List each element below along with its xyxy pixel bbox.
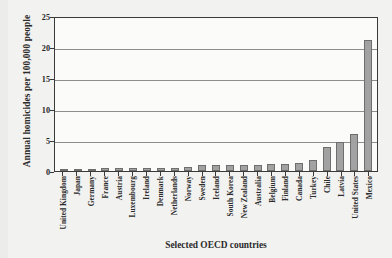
x-axis-category-label: Turkey	[309, 176, 318, 199]
x-axis-category-label: Ireland	[142, 176, 151, 200]
bar	[309, 160, 317, 171]
x-label-slot: Denmark	[153, 176, 167, 238]
bar	[254, 165, 262, 171]
x-axis-category-label: United Kingdom	[58, 176, 67, 229]
bar-slot	[264, 18, 278, 171]
bar	[198, 165, 206, 171]
bar	[281, 164, 289, 171]
bar	[157, 168, 165, 171]
bar	[364, 40, 372, 171]
bar-slot	[168, 18, 182, 171]
x-label-slot: Austria	[112, 176, 126, 238]
x-axis-category-label: Australia	[253, 176, 262, 206]
x-axis-category-label: Canada	[295, 176, 304, 201]
bar-slot	[85, 18, 99, 171]
x-axis-title: Selected OECD countries	[54, 240, 378, 250]
x-axis-category-label: Sweden	[198, 176, 207, 201]
x-axis-category-label: South Korea	[225, 176, 234, 216]
x-label-slot: Finland	[279, 176, 293, 238]
x-label-slot: France	[98, 176, 112, 238]
bar-slot	[154, 18, 168, 171]
bar	[129, 168, 137, 171]
bar	[295, 163, 303, 171]
x-label-slot: Norway	[181, 176, 195, 238]
x-label-slot: Mexico	[362, 176, 376, 238]
x-label-slot: Japan	[70, 176, 84, 238]
y-axis-title: Annual homicides per 100,000 people	[22, 6, 32, 176]
bar	[240, 165, 248, 171]
bar-slot	[140, 18, 154, 171]
bar	[74, 169, 82, 171]
bar-slot	[195, 18, 209, 171]
bar	[115, 168, 123, 171]
bar-slot	[126, 18, 140, 171]
x-label-slot: United States	[348, 176, 362, 238]
x-axis-category-label: Chile	[323, 176, 332, 193]
x-axis-category-label: New Zealand	[239, 176, 248, 218]
bar-slot	[98, 18, 112, 171]
bar	[336, 142, 344, 171]
bar-slot	[292, 18, 306, 171]
x-label-slot: Sweden	[195, 176, 209, 238]
bar	[212, 165, 220, 171]
bar-slot	[278, 18, 292, 171]
x-axis-category-label: Luxembourg	[128, 176, 137, 218]
x-axis-category-labels: United KingdomJapanGermanyFranceAustriaL…	[54, 176, 378, 238]
y-axis-tick-label: 5	[30, 137, 50, 146]
x-axis-category-label: Norway	[184, 176, 193, 201]
y-axis-tick-label: 15	[30, 75, 50, 84]
bar-slot	[57, 18, 71, 171]
bar-slot	[209, 18, 223, 171]
x-label-slot: Netherlands	[167, 176, 181, 238]
y-axis-tick-label: 20	[30, 44, 50, 53]
x-label-slot: Ireland	[139, 176, 153, 238]
bar	[323, 147, 331, 171]
x-axis-category-label: Japan	[72, 176, 81, 196]
bar-slot	[223, 18, 237, 171]
x-axis-category-label: Iceland	[211, 176, 220, 200]
x-label-slot: Australia	[251, 176, 265, 238]
bar	[184, 167, 192, 171]
bar	[101, 168, 109, 171]
x-axis-category-label: Mexico	[364, 176, 373, 199]
x-axis-category-label: France	[100, 176, 109, 198]
bar-series	[55, 18, 377, 171]
x-label-slot: New Zealand	[237, 176, 251, 238]
x-axis-category-label: Denmark	[156, 176, 165, 206]
x-axis-category-label: Latvia	[337, 176, 346, 197]
bar-slot	[181, 18, 195, 171]
bar	[143, 168, 151, 171]
bar-slot	[347, 18, 361, 171]
bar-slot	[71, 18, 85, 171]
x-axis-category-label: Austria	[114, 176, 123, 200]
x-label-slot: Belgium	[265, 176, 279, 238]
x-label-slot: Canada	[292, 176, 306, 238]
bar	[226, 165, 234, 171]
x-axis-category-label: Netherlands	[170, 176, 179, 215]
bar	[60, 169, 68, 171]
bar	[267, 164, 275, 171]
bar-slot	[251, 18, 265, 171]
y-axis-tick-label: 10	[30, 106, 50, 115]
bar-slot	[334, 18, 348, 171]
y-axis-tick-label: 25	[30, 13, 50, 22]
bar-slot	[237, 18, 251, 171]
bar-slot	[320, 18, 334, 171]
bar-slot	[306, 18, 320, 171]
x-axis-category-label: United States	[350, 176, 359, 219]
x-label-slot: Chile	[320, 176, 334, 238]
chart-page: Annual homicides per 100,000 people 0510…	[0, 0, 392, 258]
bar-slot	[361, 18, 375, 171]
bar-slot	[112, 18, 126, 171]
x-axis-category-label: Germany	[86, 176, 95, 206]
x-axis-category-label: Finland	[281, 176, 290, 201]
bar	[171, 168, 179, 171]
plot-area	[54, 17, 378, 172]
bar	[88, 169, 96, 171]
x-label-slot: Germany	[84, 176, 98, 238]
x-axis-category-label: Belgium	[267, 176, 276, 203]
bar	[350, 134, 358, 171]
x-label-slot: United Kingdom	[56, 176, 70, 238]
x-label-slot: Luxembourg	[126, 176, 140, 238]
x-label-slot: Turkey	[306, 176, 320, 238]
